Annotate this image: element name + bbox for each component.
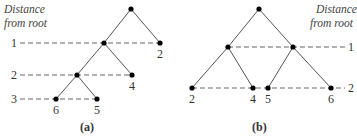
level-label-a-3: 3 (11, 93, 17, 105)
leaf-label-b-4: 4 (250, 93, 256, 105)
level-label-a-2: 2 (11, 69, 17, 81)
level-label-b-1: 1 (348, 41, 354, 53)
leaf-label-b-5: 5 (265, 93, 271, 105)
level-label-b-2: 2 (348, 82, 354, 94)
leaf-label-a-6: 6 (53, 104, 59, 116)
leaf-label-a-4: 4 (129, 80, 135, 92)
leaf-label-b-6: 6 (328, 93, 334, 105)
caption-a: (a) (80, 121, 94, 133)
leaf-label-b-2: 2 (189, 93, 195, 105)
axis-title-b-line1: Distance (316, 3, 357, 16)
leaf-label-a-2: 2 (157, 48, 163, 60)
axis-title-a-line1: Distance (4, 3, 45, 16)
root-node-b (256, 6, 261, 11)
tree-figure: Distance from root 1 2 3 2 4 6 5 (a) Dis… (0, 0, 357, 138)
level-label-a-1: 1 (11, 37, 17, 49)
axis-title-b-line2: from root (310, 17, 353, 30)
leaf-label-a-5: 5 (94, 104, 100, 116)
root-node-a (128, 6, 133, 11)
tree-drawing (0, 0, 357, 138)
axis-title-a-line2: from root (4, 17, 47, 30)
caption-b: (b) (252, 121, 267, 133)
